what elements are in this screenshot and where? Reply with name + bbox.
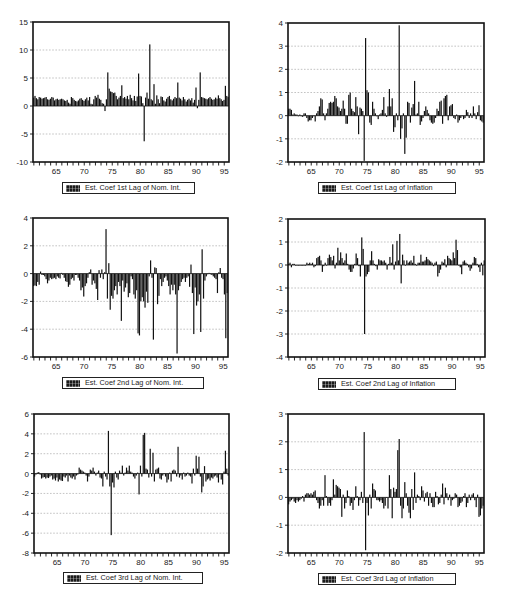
bar (226, 96, 227, 106)
bar (108, 431, 109, 474)
bar (309, 495, 310, 498)
bar (432, 497, 433, 507)
bar (176, 98, 177, 106)
bar (185, 274, 186, 282)
bar (64, 100, 65, 106)
bar (128, 99, 129, 106)
bar (369, 495, 370, 498)
bar (344, 109, 345, 116)
bar (139, 274, 140, 336)
x-tick-label: 70 (335, 362, 344, 371)
bar (175, 274, 176, 295)
bar (197, 469, 198, 474)
bar (445, 96, 446, 116)
bar (158, 99, 159, 106)
bar (190, 474, 191, 477)
bar (93, 468, 94, 474)
bar (54, 274, 55, 278)
x-tick-label: 65 (307, 558, 316, 567)
bar (289, 109, 290, 116)
bar (59, 474, 60, 480)
bar (459, 116, 460, 121)
bar (154, 474, 155, 482)
bar (102, 474, 103, 487)
bar (108, 263, 109, 273)
bar (151, 99, 152, 106)
bar (442, 484, 443, 498)
bar (410, 260, 411, 265)
bar (125, 274, 126, 288)
x-tick-label: 70 (80, 167, 89, 176)
y-tick-label: -2 (276, 158, 284, 167)
bar (336, 485, 337, 498)
bar (57, 274, 58, 277)
bar (128, 274, 129, 298)
y-tick-label: 1 (279, 238, 284, 247)
bar (71, 274, 72, 280)
bar (58, 100, 59, 106)
bar (481, 497, 482, 508)
bar (58, 474, 59, 482)
y-tick-label: -2 (22, 489, 30, 498)
bar (366, 90, 367, 115)
bar (123, 98, 124, 106)
bar (352, 111, 353, 116)
bar (104, 106, 105, 111)
bar (413, 104, 414, 116)
bar (218, 95, 219, 106)
x-tick-label: 75 (363, 167, 372, 176)
bar (341, 258, 342, 265)
bar (188, 99, 189, 106)
bar (340, 489, 341, 497)
bar (42, 474, 43, 478)
bar (439, 102, 440, 116)
bar (415, 497, 416, 503)
bar (135, 274, 136, 299)
bar (186, 102, 187, 106)
y-tick-label: 5 (24, 74, 29, 83)
bar (157, 469, 158, 474)
bar (319, 497, 320, 508)
bar (150, 449, 151, 474)
bar (291, 497, 292, 500)
bar (63, 474, 64, 477)
bar (90, 269, 91, 273)
bar (331, 497, 332, 500)
x-tick-label: 65 (307, 167, 316, 176)
bar (367, 265, 368, 274)
bar (73, 274, 74, 281)
bar (381, 260, 382, 265)
y-tick-label: -2 (21, 297, 29, 306)
bar (330, 497, 331, 505)
bar (318, 257, 319, 265)
bar-series (288, 25, 484, 161)
bar (427, 110, 428, 116)
bar (204, 274, 205, 281)
y-tick-label: 3 (279, 42, 284, 51)
y-tick-label: -2 (276, 549, 284, 558)
bar (146, 274, 147, 292)
bar (378, 497, 379, 500)
bar (159, 103, 160, 106)
x-tick-label: 65 (52, 362, 61, 371)
bar (305, 495, 306, 498)
bar (455, 116, 456, 119)
bar (50, 274, 51, 278)
bar (471, 495, 472, 498)
bar (80, 274, 81, 291)
bar (464, 493, 465, 497)
bar (345, 497, 346, 503)
bar (141, 96, 142, 106)
bar (316, 258, 317, 265)
bar (475, 258, 476, 265)
bar (368, 497, 369, 515)
bar-series (33, 229, 228, 353)
bar (482, 265, 483, 275)
bar (323, 497, 324, 505)
bar (353, 265, 354, 268)
y-tick-label: 2 (279, 65, 284, 74)
bar (446, 95, 447, 116)
bar (85, 99, 86, 106)
bar (211, 474, 212, 478)
bar (53, 274, 54, 279)
